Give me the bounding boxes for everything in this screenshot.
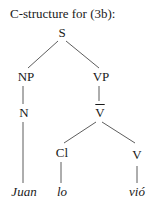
- node-n: N: [19, 105, 28, 121]
- node-vp: VP: [93, 69, 110, 85]
- leaf-juan: Juan: [11, 184, 36, 200]
- node-vbar: V: [95, 105, 104, 121]
- leaf-vio: vió: [129, 184, 145, 200]
- tree-edges: [0, 0, 151, 202]
- edge-vbar-cl: [64, 122, 96, 143]
- node-np: NP: [18, 69, 35, 85]
- edge-s-np: [28, 41, 58, 68]
- node-cl: Cl: [56, 145, 68, 161]
- leaf-lo: lo: [57, 184, 67, 200]
- node-s: S: [58, 25, 65, 41]
- edge-s-vp: [66, 41, 99, 68]
- edge-vbar-v: [102, 122, 135, 143]
- node-v: V: [132, 147, 141, 163]
